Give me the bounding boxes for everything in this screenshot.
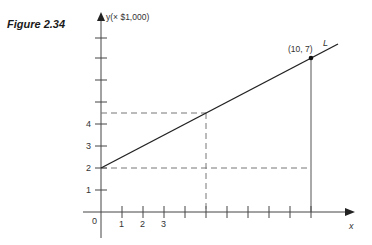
line-graph: y(× $1,000) x L (10, 7) 0 1 2 3 1 2 3 4 bbox=[0, 0, 372, 245]
point-10-7 bbox=[309, 56, 314, 61]
x-tick-label-2: 2 bbox=[140, 219, 145, 229]
point-label: (10, 7) bbox=[288, 44, 313, 54]
y-tick-label-2: 2 bbox=[86, 163, 91, 173]
x-tick-label-3: 3 bbox=[161, 219, 166, 229]
x-tick-label-1: 1 bbox=[119, 219, 124, 229]
line-L bbox=[101, 44, 338, 168]
x-axis-label: x bbox=[348, 221, 354, 231]
dashed-guides bbox=[101, 113, 311, 212]
y-axis-label: y(× $1,000) bbox=[106, 12, 149, 22]
y-tick-label-3: 3 bbox=[86, 141, 91, 151]
y-tick-label-1: 1 bbox=[86, 185, 91, 195]
line-label: L bbox=[323, 38, 328, 48]
x-tick-label-0: 0 bbox=[92, 216, 97, 226]
y-axis-arrow-icon bbox=[97, 12, 105, 21]
x-axis-arrow-icon bbox=[345, 208, 355, 216]
y-tick-label-4: 4 bbox=[86, 119, 91, 129]
